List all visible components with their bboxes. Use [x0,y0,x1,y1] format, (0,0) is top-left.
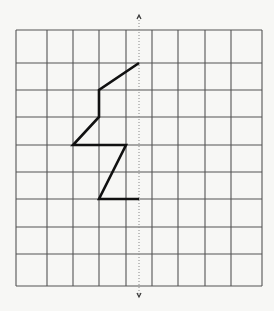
mirror-line [137,15,141,297]
shape-polyline [73,63,139,199]
reflection-diagram [0,0,274,311]
shape [73,63,139,199]
